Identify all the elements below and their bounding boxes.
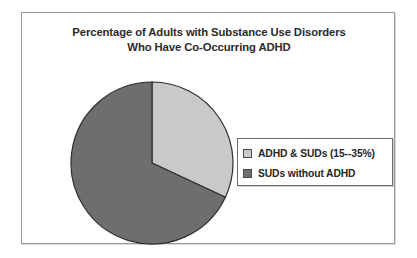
legend-swatch-icon-suds-without-adhd [243,169,252,178]
legend-swatch-icon-adhd-and-suds [243,149,252,158]
pie-chart [70,81,234,245]
legend-label-adhd-and-suds: ADHD & SUDs (15--35%) [258,148,375,159]
legend-label-suds-without-adhd: SUDs without ADHD [258,168,355,179]
chart-frame: Percentage of Adults with Substance Use … [21,12,395,244]
chart-legend: ADHD & SUDs (15--35%) SUDs without ADHD [237,138,393,186]
chart-title-line-2: Who Have Co-Occurring ADHD [22,40,396,55]
chart-title-line-1: Percentage of Adults with Substance Use … [22,25,396,40]
legend-item-suds-without-adhd[interactable]: SUDs without ADHD [243,163,387,183]
chart-title: Percentage of Adults with Substance Use … [22,25,396,55]
pie-chart-svg [70,81,234,245]
legend-item-adhd-and-suds[interactable]: ADHD & SUDs (15--35%) [243,143,387,163]
